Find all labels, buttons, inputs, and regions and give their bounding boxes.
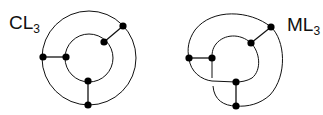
- ml3-node: [232, 78, 239, 85]
- ml3-edge: [251, 27, 271, 43]
- cl3-node: [84, 77, 91, 84]
- cl3-node: [100, 38, 107, 45]
- cl3-node: [62, 53, 69, 60]
- cl3-edge: [104, 26, 123, 42]
- ml3-node: [232, 102, 239, 109]
- ml3-node: [267, 23, 274, 30]
- ml3-inner-arc-right: [236, 43, 259, 82]
- ml3-node: [185, 54, 192, 61]
- cl3-nodes: [39, 22, 126, 108]
- cl3-node: [39, 53, 46, 60]
- ml3-outer-arc-right: [236, 27, 283, 106]
- diagram-canvas: [0, 0, 323, 115]
- cl3-node: [119, 22, 126, 29]
- ml3-cross-arc-b2: [213, 86, 236, 106]
- ml3-node: [247, 39, 254, 46]
- ml3-node: [208, 54, 215, 61]
- cl3-node: [84, 101, 91, 108]
- ml3-inner-arc-top: [212, 36, 251, 58]
